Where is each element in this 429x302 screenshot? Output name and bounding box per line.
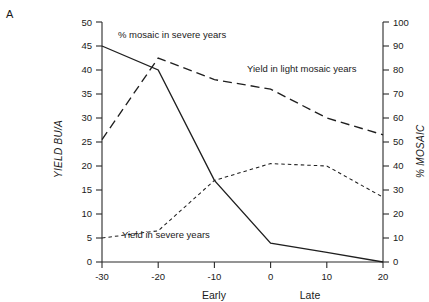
axes-group [102, 22, 383, 262]
x-ticklabel: 20 [378, 271, 389, 282]
y-ticklabel: 5 [87, 232, 92, 243]
y-axis-right-ticks [383, 22, 389, 262]
x-ticklabel: -20 [151, 271, 165, 282]
y-ticklabel: 50 [81, 17, 92, 28]
y-ticklabel: 10 [81, 208, 92, 219]
y2-ticklabel: 50 [393, 136, 404, 147]
x-ticklabel: 0 [268, 271, 273, 282]
y-axis-left-title: YIELD BU/A [53, 120, 64, 178]
x-category-late: Late [300, 289, 321, 301]
y2-ticklabel: 80 [393, 64, 404, 75]
y-axis-right-ticklabels: 0 10 20 30 40 50 60 70 80 90 100 [393, 17, 409, 267]
y2-ticklabel: 60 [393, 112, 404, 123]
y-ticklabel: 35 [81, 88, 92, 99]
y2-ticklabel: 30 [393, 184, 404, 195]
y-ticklabel: 15 [81, 184, 92, 195]
x-ticklabel: 10 [322, 271, 333, 282]
y-ticklabel: 45 [81, 40, 92, 51]
y2-ticklabel: 70 [393, 88, 404, 99]
y-axis-left-ticks [96, 22, 102, 262]
series-line-yield-severe [102, 164, 383, 238]
y-axis-left-ticklabels: 0 5 10 15 20 25 30 35 40 45 50 [81, 17, 92, 267]
x-axis-ticklabels: -30 -20 -10 0 10 20 [95, 271, 388, 282]
y2-ticklabel: 100 [393, 17, 409, 28]
y2-ticklabel: 0 [393, 256, 398, 267]
x-axis-ticks [102, 262, 383, 268]
y2-ticklabel: 90 [393, 40, 404, 51]
line-chart: 0 5 10 15 20 25 30 35 40 45 50 [0, 0, 429, 302]
y-ticklabel: 0 [87, 256, 92, 267]
y-ticklabel: 25 [81, 136, 92, 147]
y-ticklabel: 20 [81, 160, 92, 171]
y-axis-right-title: % MOSAIC [415, 124, 426, 178]
series-label-yield-severe: Yield in severe years [122, 229, 210, 240]
y-ticklabel: 30 [81, 112, 92, 123]
y2-ticklabel: 20 [393, 208, 404, 219]
y-ticklabel: 40 [81, 64, 92, 75]
figure-panel: A 0 5 10 15 20 25 3 [0, 0, 429, 302]
y2-ticklabel: 10 [393, 232, 404, 243]
x-ticklabel: -10 [208, 271, 222, 282]
x-category-early: Early [202, 289, 227, 301]
x-ticklabel: -30 [95, 271, 109, 282]
y2-ticklabel: 40 [393, 160, 404, 171]
series-label-mosaic-severe: % mosaic in severe years [118, 29, 226, 40]
series-label-yield-light-mosaic: Yield in light mosaic years [247, 63, 357, 74]
